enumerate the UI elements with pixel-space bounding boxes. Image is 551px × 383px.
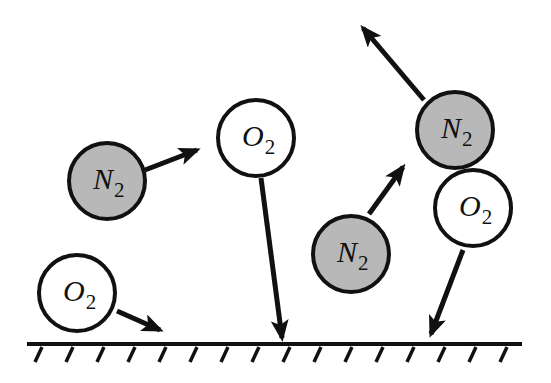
velocity-arrow-icon	[369, 167, 403, 214]
surface-hatch	[221, 347, 228, 362]
surface-hatch	[35, 347, 42, 362]
surface-hatch	[128, 347, 135, 362]
velocity-arrow-icon	[117, 311, 160, 330]
surface-hatch	[314, 347, 321, 362]
molecule-o2-right: O2	[431, 170, 511, 334]
surface-hatch	[190, 347, 197, 362]
velocity-arrow-icon	[363, 28, 424, 100]
molecule-n2-top-right: N2	[363, 28, 493, 168]
surface-hatch	[97, 347, 104, 362]
surface-hatch	[376, 347, 383, 362]
velocity-arrow-icon	[145, 150, 197, 170]
molecules: N2O2N2N2O2O2	[39, 28, 511, 338]
molecule-n2-left: N2	[69, 143, 197, 219]
molecule-n2-bottom-middle: N2	[313, 167, 403, 292]
surface-hatch	[66, 347, 73, 362]
surface-hatch	[283, 347, 290, 362]
surface-hatch	[252, 347, 259, 362]
surface-hatch	[345, 347, 352, 362]
surface-hatch	[407, 347, 414, 362]
surface-hatch	[469, 347, 476, 362]
surface-hatch	[500, 347, 507, 362]
gas-molecules-diagram: N2O2N2N2O2O2	[0, 0, 551, 383]
velocity-arrow-icon	[431, 250, 463, 334]
surface-hatch	[159, 347, 166, 362]
molecule-o2-bottom-left: O2	[39, 255, 160, 331]
velocity-arrow-icon	[261, 178, 282, 338]
molecule-o2-top-middle: O2	[218, 100, 294, 338]
ground-surface	[27, 344, 522, 362]
surface-hatch	[438, 347, 445, 362]
